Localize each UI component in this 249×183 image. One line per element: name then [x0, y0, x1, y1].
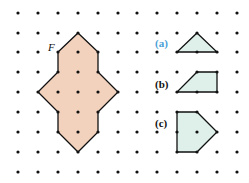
grid-dot	[235, 110, 238, 113]
grid-dot	[215, 130, 218, 133]
grid-dot	[96, 110, 99, 113]
grid-dot	[36, 70, 39, 73]
grid-dot	[215, 150, 218, 153]
grid-dot	[76, 31, 79, 34]
grid-dot	[56, 90, 59, 93]
grid-dot	[135, 70, 138, 73]
grid-dot	[215, 11, 218, 14]
option-a-triangle	[177, 33, 217, 52]
grid-dot	[175, 130, 178, 133]
option-c-label: (c)	[155, 117, 167, 129]
dot-grid-figure	[0, 0, 249, 183]
grid-dot	[195, 110, 198, 113]
grid-dot	[96, 150, 99, 153]
grid-dot	[76, 11, 79, 14]
grid-dot	[116, 110, 119, 113]
grid-dot	[56, 150, 59, 153]
grid-dot	[16, 130, 19, 133]
grid-dot	[56, 70, 59, 73]
grid-dot	[195, 50, 198, 53]
grid-dot	[36, 150, 39, 153]
grid-dot	[116, 170, 119, 173]
grid-dot	[235, 90, 238, 93]
grid-dot	[215, 170, 218, 173]
grid-dot	[76, 110, 79, 113]
grid-dot	[36, 90, 39, 93]
grid-dot	[175, 170, 178, 173]
grid-dot	[175, 70, 178, 73]
grid-dot	[175, 50, 178, 53]
grid-dot	[96, 11, 99, 14]
grid-dot	[135, 130, 138, 133]
grid-dot	[155, 170, 158, 173]
grid-dot	[155, 110, 158, 113]
grid-dot	[195, 31, 198, 34]
grid-dot	[195, 150, 198, 153]
grid-dot	[175, 11, 178, 14]
grid-dot	[76, 50, 79, 53]
grid-dot	[116, 70, 119, 73]
grid-dot	[116, 11, 119, 14]
grid-dot	[195, 11, 198, 14]
grid-dot	[16, 31, 19, 34]
grid-dot	[36, 110, 39, 113]
grid-dot	[56, 110, 59, 113]
grid-dot	[76, 150, 79, 153]
grid-dot	[16, 70, 19, 73]
grid-dot	[76, 170, 79, 173]
grid-dot	[215, 90, 218, 93]
grid-dot	[175, 31, 178, 34]
grid-dot	[96, 31, 99, 34]
grid-dot	[215, 110, 218, 113]
grid-dot	[175, 110, 178, 113]
grid-dot	[76, 70, 79, 73]
grid-dot	[155, 31, 158, 34]
grid-dot	[16, 170, 19, 173]
grid-dot	[36, 31, 39, 34]
grid-dot	[16, 110, 19, 113]
grid-dot	[76, 130, 79, 133]
grid-dot	[235, 130, 238, 133]
grid-dot	[215, 31, 218, 34]
grid-dot	[116, 90, 119, 93]
grid-dot	[175, 90, 178, 93]
grid-dot	[135, 11, 138, 14]
grid-dot	[96, 70, 99, 73]
grid-dot	[155, 150, 158, 153]
grid-dot	[96, 130, 99, 133]
grid-dot	[36, 130, 39, 133]
grid-dot	[235, 31, 238, 34]
grid-dot	[155, 50, 158, 53]
option-b-trapezoid	[177, 72, 217, 92]
grid-dot	[195, 170, 198, 173]
grid-dot	[16, 11, 19, 14]
grid-dot	[56, 170, 59, 173]
grid-dot	[56, 130, 59, 133]
grid-dot	[235, 50, 238, 53]
grid-dot	[56, 50, 59, 53]
grid-dot	[36, 50, 39, 53]
shape-f-label: F	[48, 41, 55, 53]
grid-dot	[36, 170, 39, 173]
grid-dot	[155, 130, 158, 133]
grid-dot	[235, 11, 238, 14]
grid-dot	[155, 70, 158, 73]
grid-dot	[195, 70, 198, 73]
grid-dot	[16, 150, 19, 153]
option-a-label: (a)	[155, 37, 168, 49]
grid-dot	[16, 90, 19, 93]
grid-dot	[116, 130, 119, 133]
grid-dot	[175, 150, 178, 153]
grid-dot	[195, 90, 198, 93]
grid-dot	[135, 150, 138, 153]
grid-dot	[96, 170, 99, 173]
grid-dot	[155, 11, 158, 14]
grid-dot	[16, 50, 19, 53]
grid-dot	[135, 31, 138, 34]
grid-dot	[116, 31, 119, 34]
grid-dot	[235, 170, 238, 173]
grid-dot	[215, 50, 218, 53]
grid-dot	[235, 70, 238, 73]
grid-dot	[135, 170, 138, 173]
grid-dot	[96, 50, 99, 53]
